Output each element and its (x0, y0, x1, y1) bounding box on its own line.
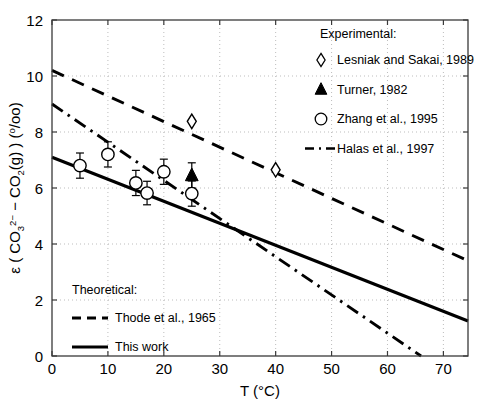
xtick-label: 20 (155, 360, 172, 377)
xtick-label: 30 (211, 360, 228, 377)
marker-circle-open (130, 177, 142, 189)
figure-container: 010203040506070024681012 T (°C)ε ( CO32−… (0, 0, 482, 413)
ytick-label: 0 (35, 348, 43, 365)
legend-entry-label: This work (115, 340, 169, 354)
chart-canvas: 010203040506070024681012 T (°C)ε ( CO32−… (0, 0, 482, 413)
xtick-label: 60 (379, 360, 396, 377)
ytick-label: 12 (26, 12, 43, 29)
ytick-label: 10 (26, 68, 43, 85)
x-axis-title: T (°C) (240, 382, 280, 399)
legend-entry-label: Halas et al., 1997 (337, 142, 434, 156)
legend-theoretical-heading: Theoretical: (72, 283, 137, 297)
marker-circle-open (186, 187, 198, 199)
xtick-label: 50 (323, 360, 340, 377)
marker-circle-open (74, 159, 86, 171)
xtick-label: 0 (48, 360, 56, 377)
marker-circle-open (141, 187, 153, 199)
marker-circle-open (158, 166, 170, 178)
xtick-label: 40 (267, 360, 284, 377)
marker-circle-open (102, 148, 114, 160)
ytick-label: 4 (35, 236, 43, 253)
legend-entry-label: Thode et al., 1965 (115, 311, 216, 325)
ytick-label: 8 (35, 124, 43, 141)
legend-entry-label: Lesniak and Sakai, 1989 (337, 53, 474, 67)
ytick-label: 2 (35, 292, 43, 309)
xtick-label: 10 (100, 360, 117, 377)
legend-entry-label: Zhang et al., 1995 (337, 112, 438, 126)
legend-entry-label: Turner, 1982 (337, 83, 407, 97)
ytick-label: 6 (35, 180, 43, 197)
legend-circle-open-icon (315, 113, 327, 125)
xtick-label: 70 (435, 360, 452, 377)
legend-experimental-heading: Experimental: (320, 27, 396, 41)
